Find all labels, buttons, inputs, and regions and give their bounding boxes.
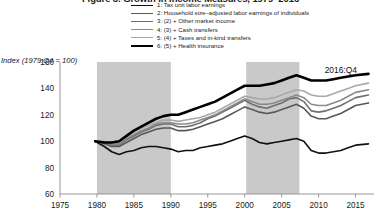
chart-svg: 6080100120140160 19751980198519901995200… <box>0 0 381 218</box>
x-tick-label: 2010 <box>309 201 328 210</box>
plot-area: 6080100120140160 19751980198519901995200… <box>0 0 381 218</box>
x-tick-label: 2005 <box>273 201 292 210</box>
x-tick-labels: 197519801985199019952000200520102015 <box>51 201 365 210</box>
y-tick-label: 160 <box>40 58 54 67</box>
y-tick-label: 120 <box>40 111 54 120</box>
x-tick-label: 1990 <box>162 201 181 210</box>
x-tick-label: 1975 <box>51 201 70 210</box>
y-tick-label: 140 <box>40 84 54 93</box>
x-tick-label: 1985 <box>125 201 144 210</box>
y-tick-label: 100 <box>40 137 54 146</box>
y-tick-label: 60 <box>45 190 55 199</box>
annotations: 2016:Q4 <box>325 65 357 75</box>
recession-band <box>246 62 299 194</box>
x-tick-label: 1980 <box>88 201 107 210</box>
chart-annotation: 2016:Q4 <box>325 65 357 75</box>
chart-root: Figure 3. Growth in Income Measures, 197… <box>0 0 381 218</box>
x-tick-label: 2015 <box>346 201 365 210</box>
x-tick-label: 2000 <box>236 201 255 210</box>
y-tick-label: 80 <box>45 164 55 173</box>
y-tick-labels: 6080100120140160 <box>40 58 54 199</box>
x-tick-label: 1995 <box>199 201 218 210</box>
